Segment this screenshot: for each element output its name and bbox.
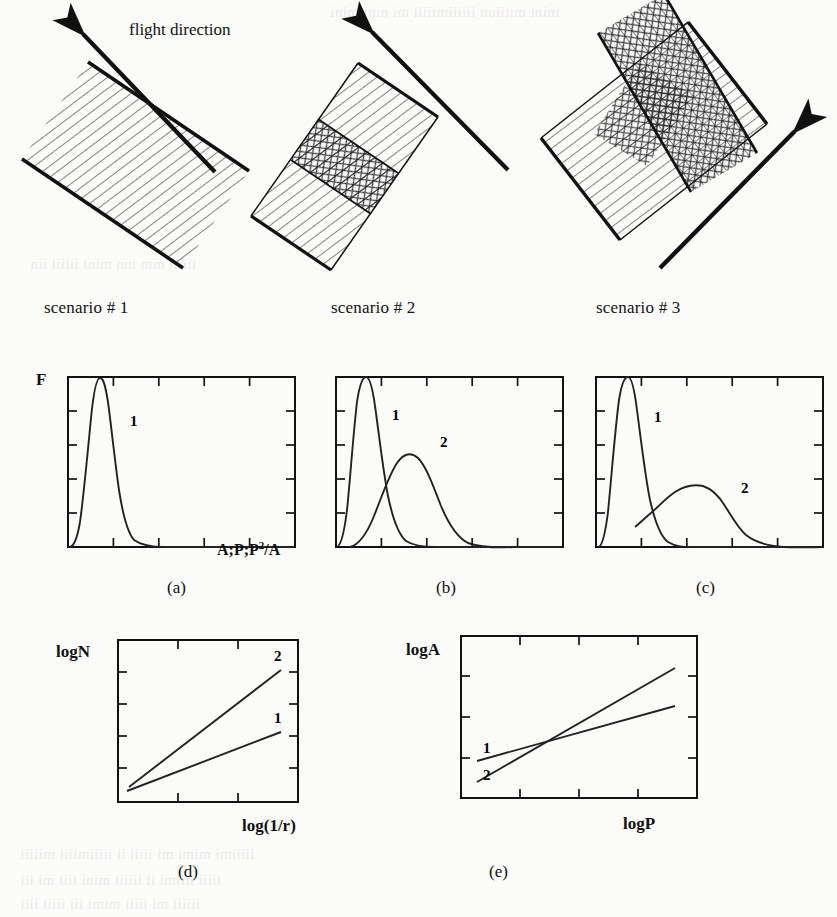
panel-a-xlabel: A;P;P2/A xyxy=(217,539,280,559)
panel-b-curve-label-2: 2 xyxy=(440,434,448,450)
panel-d-ylabel: logN xyxy=(56,642,90,662)
panel-b-curve-label-1: 1 xyxy=(392,407,400,423)
panel-a-curve-label-1: 1 xyxy=(130,413,138,429)
page-bleed-through-bottom: iiiiimi mimi mi iiiii ii iiiiimiiii miii… xyxy=(20,846,254,863)
panel-b-yticks xyxy=(336,411,563,513)
scenario-1-caption: scenario # 1 xyxy=(44,298,129,318)
panel-e-caption: (e) xyxy=(489,862,508,882)
panel-a-ylabel: F xyxy=(36,370,46,390)
panel-c-curve-label-1: 1 xyxy=(654,409,662,425)
panel-e-yticks xyxy=(461,676,697,758)
panel-e-xlabel: logP xyxy=(623,814,655,834)
panel-e-curve-label-1: 1 xyxy=(483,740,491,756)
panel-a-yticks xyxy=(68,411,295,513)
panel-c-caption: (c) xyxy=(696,578,715,598)
panel-d-xlabel: log(1/r) xyxy=(242,816,296,836)
page-bleed-through-bottom3: iiiiii mi iiiii mimi iii iiiii iiii xyxy=(20,896,200,913)
panel-d-caption: (d) xyxy=(178,862,198,882)
panel-d-curve-label-2: 2 xyxy=(274,648,282,664)
flight-direction-label: flight direction xyxy=(129,20,231,40)
scenario-2-swath xyxy=(251,63,438,270)
panel-a-caption: (a) xyxy=(167,578,186,598)
panel-a-plot: 1 xyxy=(60,370,300,560)
figure-root: inint mitiiun iiiiiimiiiii mi nini mini … xyxy=(0,0,837,917)
panel-a-xticks xyxy=(113,377,249,547)
panel-e-ylabel: logA xyxy=(406,640,440,660)
panel-d-line-2 xyxy=(129,670,281,787)
panel-e-plot: 1 2 xyxy=(455,630,705,810)
panel-d-line-1 xyxy=(127,732,281,791)
panel-e-curve-label-2: 2 xyxy=(483,767,491,783)
panel-e-line-1 xyxy=(477,706,675,761)
panel-c-plot: 1 2 xyxy=(588,370,833,560)
scenario-3-caption: scenario # 3 xyxy=(596,298,681,318)
scenario-3-swath xyxy=(541,0,767,240)
panel-b-plot: 1 2 xyxy=(328,370,573,560)
panel-c-xticks xyxy=(641,377,777,547)
panel-d-yticks xyxy=(118,672,298,768)
panel-e-line-2 xyxy=(477,668,675,782)
panel-a-curve-1 xyxy=(70,378,295,547)
panel-c-curve-1 xyxy=(599,377,823,547)
panel-e-xticks xyxy=(520,636,638,798)
scenarios-diagram xyxy=(0,0,837,300)
scenario-1-swath xyxy=(22,62,249,268)
panel-b-curve-2 xyxy=(350,454,563,547)
scenario-2-caption: scenario # 2 xyxy=(331,298,416,318)
panel-d-curve-label-1: 1 xyxy=(274,710,282,726)
panel-b-caption: (b) xyxy=(436,578,456,598)
panel-d-xticks xyxy=(178,640,238,802)
panel-c-yticks xyxy=(596,411,823,513)
panel-c-curve-label-2: 2 xyxy=(741,480,749,496)
panel-d-plot: 2 1 xyxy=(112,634,307,814)
